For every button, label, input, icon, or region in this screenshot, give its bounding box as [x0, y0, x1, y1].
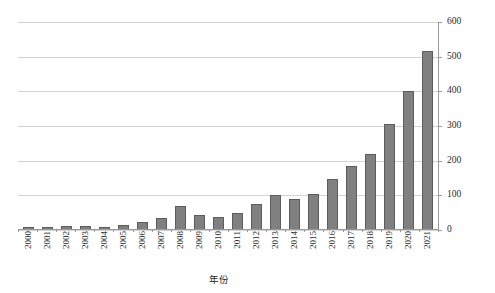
bar-slot	[19, 22, 38, 230]
bar-slot	[133, 22, 152, 230]
bar-2021[interactable]	[422, 51, 434, 230]
bar-slot	[361, 22, 380, 230]
x-label-slot: 2008	[171, 231, 190, 273]
x-label-slot: 2017	[342, 231, 361, 273]
bar-slot	[285, 22, 304, 230]
x-label-slot: 2004	[95, 231, 114, 273]
bar-slot	[304, 22, 323, 230]
x-axis-label-2008: 2008	[176, 231, 185, 249]
bar-slot	[76, 22, 95, 230]
y-tick-mark-100	[438, 195, 442, 196]
x-label-slot: 2011	[228, 231, 247, 273]
bar-slot	[323, 22, 342, 230]
y-tick-mark-300	[438, 126, 442, 127]
y-tick-label-300: 300	[447, 121, 461, 131]
x-label-slot: 2016	[323, 231, 342, 273]
bar-slot	[418, 22, 437, 230]
y-tick-mark-400	[438, 91, 442, 92]
bars-layer	[18, 22, 438, 230]
x-label-slot: 2013	[266, 231, 285, 273]
bar-chart-figure: 2000200120022003200420052006200720082009…	[0, 0, 495, 293]
x-axis-label-2007: 2007	[157, 231, 166, 249]
x-label-slot: 2002	[57, 231, 76, 273]
y-tick-mark-600	[438, 22, 442, 23]
x-label-slot: 2007	[152, 231, 171, 273]
bar-2011[interactable]	[232, 213, 244, 230]
x-axis-label-2016: 2016	[328, 231, 337, 249]
bar-slot	[95, 22, 114, 230]
x-label-slot: 2003	[76, 231, 95, 273]
bar-2009[interactable]	[194, 215, 206, 230]
bar-slot	[152, 22, 171, 230]
bar-slot	[266, 22, 285, 230]
x-label-slot: 2018	[361, 231, 380, 273]
x-axis-label-2010: 2010	[214, 231, 223, 249]
x-axis-label-2014: 2014	[290, 231, 299, 249]
x-label-slot: 2020	[399, 231, 418, 273]
bar-2019[interactable]	[384, 124, 396, 230]
y-tick-label-600: 600	[447, 17, 461, 27]
bar-2008[interactable]	[175, 206, 187, 230]
bar-2015[interactable]	[308, 194, 320, 230]
bar-slot	[380, 22, 399, 230]
bar-slot	[399, 22, 418, 230]
x-label-slot: 2009	[190, 231, 209, 273]
x-label-slot: 2012	[247, 231, 266, 273]
y-tick-label-0: 0	[447, 225, 452, 235]
bar-2017[interactable]	[346, 166, 358, 230]
x-axis-label-2020: 2020	[404, 231, 413, 249]
y-tick-label-500: 500	[447, 52, 461, 62]
x-axis-label-2001: 2001	[43, 231, 52, 249]
x-axis-label-2015: 2015	[309, 231, 318, 249]
y-tick-label-100: 100	[447, 191, 461, 201]
x-axis-label-2009: 2009	[195, 231, 204, 249]
x-axis-label-2013: 2013	[271, 231, 280, 249]
bar-slot	[57, 22, 76, 230]
plot-area	[18, 22, 438, 230]
x-axis-label-2021: 2021	[423, 231, 432, 249]
bar-2014[interactable]	[289, 199, 301, 230]
x-axis-label-2000: 2000	[24, 231, 33, 249]
x-axis-label-2017: 2017	[347, 231, 356, 249]
x-label-slot: 2019	[380, 231, 399, 273]
x-label-slot: 2006	[133, 231, 152, 273]
bar-slot	[190, 22, 209, 230]
x-label-slot: 2001	[38, 231, 57, 273]
x-label-slot: 2010	[209, 231, 228, 273]
x-label-slot: 2005	[114, 231, 133, 273]
y-tick-label-200: 200	[447, 156, 461, 166]
bar-slot	[171, 22, 190, 230]
x-axis-label-2005: 2005	[119, 231, 128, 249]
bar-2018[interactable]	[365, 154, 377, 230]
x-axis-label-2004: 2004	[100, 231, 109, 249]
bar-slot	[114, 22, 133, 230]
x-axis-labels: 2000200120022003200420052006200720082009…	[18, 231, 438, 273]
y-tick-mark-200	[438, 161, 442, 162]
x-label-slot: 2000	[19, 231, 38, 273]
bar-2012[interactable]	[251, 204, 263, 230]
bar-slot	[209, 22, 228, 230]
x-axis-label-2003: 2003	[81, 231, 90, 249]
x-label-slot: 2015	[304, 231, 323, 273]
x-axis-title: 年份	[0, 272, 438, 286]
bar-2016[interactable]	[327, 179, 339, 230]
bar-2020[interactable]	[403, 91, 415, 230]
bar-slot	[38, 22, 57, 230]
x-label-slot: 2014	[285, 231, 304, 273]
x-axis-label-2012: 2012	[252, 231, 261, 249]
y-tick-mark-0	[438, 230, 442, 231]
x-axis-label-2006: 2006	[138, 231, 147, 249]
bar-slot	[247, 22, 266, 230]
bar-slot	[228, 22, 247, 230]
x-axis-label-2002: 2002	[62, 231, 71, 249]
x-axis-label-2011: 2011	[233, 231, 242, 249]
x-label-slot: 2021	[418, 231, 437, 273]
x-axis-label-2018: 2018	[366, 231, 375, 249]
y-tick-mark-500	[438, 57, 442, 58]
y-tick-label-400: 400	[447, 87, 461, 97]
x-axis-label-2019: 2019	[385, 231, 394, 249]
bar-2013[interactable]	[270, 195, 282, 230]
bar-slot	[342, 22, 361, 230]
